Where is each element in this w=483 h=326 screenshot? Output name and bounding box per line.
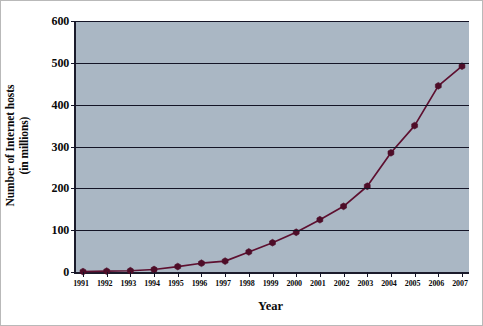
x-tick-label-1991: 1991	[73, 279, 89, 288]
x-axis-title: Year	[74, 299, 467, 314]
x-tick-label-1995: 1995	[168, 279, 184, 288]
data-point-1999	[270, 239, 276, 246]
gridline-y-300	[76, 147, 469, 148]
x-tick-mark-1993	[130, 272, 131, 277]
y-tick-mark-0	[71, 272, 76, 273]
x-tick-mark-1998	[249, 272, 250, 277]
x-axis-tick-labels: 1991199219931994199519961997199819992000…	[74, 279, 467, 293]
x-tick-mark-1991	[83, 272, 84, 277]
x-tick-label-1997: 1997	[215, 279, 231, 288]
data-point-2006	[435, 82, 441, 89]
x-tick-mark-1994	[154, 272, 155, 277]
x-tick-label-1999: 1999	[263, 279, 279, 288]
plot-area	[74, 21, 469, 274]
y-axis-title-line1: Number of Internet hosts	[4, 85, 16, 207]
y-tick-label-500: 500	[31, 55, 69, 70]
x-tick-label-2000: 2000	[286, 279, 302, 288]
y-tick-label-0: 0	[31, 265, 69, 280]
x-tick-mark-2001	[320, 272, 321, 277]
x-tick-label-1993: 1993	[121, 279, 137, 288]
x-tick-mark-2003	[367, 272, 368, 277]
x-tick-mark-2007	[462, 272, 463, 277]
x-tick-mark-1996	[201, 272, 202, 277]
data-point-1997	[222, 258, 228, 265]
data-point-1996	[198, 260, 204, 267]
gridline-y-200	[76, 188, 469, 189]
x-tick-label-1998: 1998	[239, 279, 255, 288]
data-point-2004	[388, 149, 394, 156]
x-tick-mark-1997	[225, 272, 226, 277]
gridline-y-600	[76, 21, 469, 22]
x-tick-label-1992: 1992	[97, 279, 113, 288]
x-tick-label-2002: 2002	[334, 279, 350, 288]
x-tick-label-2005: 2005	[405, 279, 421, 288]
y-tick-label-300: 300	[31, 139, 69, 154]
x-tick-mark-2005	[415, 272, 416, 277]
x-tick-label-2004: 2004	[381, 279, 397, 288]
data-point-1998	[246, 249, 252, 256]
data-point-1995	[175, 263, 181, 270]
x-tick-mark-1992	[107, 272, 108, 277]
x-tick-mark-1999	[273, 272, 274, 277]
y-axis-title-line2: (in millions)	[18, 85, 32, 207]
y-tick-label-400: 400	[31, 97, 69, 112]
gridline-y-500	[76, 63, 469, 64]
y-tick-mark-200	[71, 188, 76, 189]
y-tick-mark-300	[71, 147, 76, 148]
chart-figure: Number of Internet hosts (in millions) 0…	[0, 0, 483, 326]
gridline-y-400	[76, 105, 469, 106]
x-tick-label-2007: 2007	[452, 279, 468, 288]
x-tick-mark-2002	[344, 272, 345, 277]
y-axis-title: Number of Internet hosts (in millions)	[1, 1, 35, 291]
x-tick-mark-2000	[296, 272, 297, 277]
x-tick-mark-1995	[178, 272, 179, 277]
x-tick-label-2001: 2001	[310, 279, 326, 288]
x-tick-label-1996: 1996	[192, 279, 208, 288]
x-tick-mark-2004	[391, 272, 392, 277]
x-tick-label-1994: 1994	[144, 279, 160, 288]
data-point-2005	[412, 122, 418, 129]
y-tick-mark-600	[71, 21, 76, 22]
x-tick-label-2003: 2003	[357, 279, 373, 288]
y-axis-tick-labels: 0100200300400500600	[31, 21, 69, 272]
y-tick-label-600: 600	[31, 14, 69, 29]
x-tick-mark-2006	[438, 272, 439, 277]
data-point-2001	[317, 216, 323, 223]
y-tick-label-100: 100	[31, 223, 69, 238]
y-tick-mark-400	[71, 105, 76, 106]
x-tick-label-2006: 2006	[429, 279, 445, 288]
data-point-2002	[341, 203, 347, 210]
y-tick-mark-500	[71, 63, 76, 64]
gridline-y-100	[76, 230, 469, 231]
y-tick-mark-100	[71, 230, 76, 231]
y-tick-label-200: 200	[31, 181, 69, 196]
